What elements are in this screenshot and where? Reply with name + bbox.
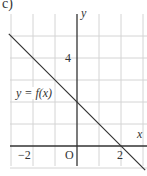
function-label: y = f(x) (15, 87, 53, 99)
part-label: c) (2, 0, 13, 11)
x-tick-label-2: 2 (117, 149, 123, 161)
origin-label: O (65, 149, 74, 161)
x-axis-label: x (137, 128, 142, 140)
x-tick-label-neg2: −2 (18, 149, 31, 161)
y-axis-label: y (81, 7, 86, 19)
function-label-text: y = f(x) (16, 86, 52, 100)
y-tick-label-4: 4 (65, 52, 71, 64)
